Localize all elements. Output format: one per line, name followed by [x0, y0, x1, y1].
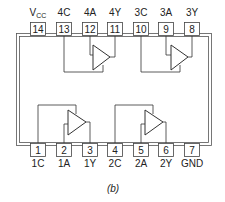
pin-label-4a: 4A — [84, 7, 97, 18]
pin-14: 14 — [31, 23, 46, 36]
pin-6: 6 — [159, 144, 174, 157]
pin-2: 2 — [57, 144, 72, 157]
pin-3: 3 — [83, 144, 98, 157]
pin-label-3a: 3A — [160, 7, 173, 18]
pin-7: 7 — [185, 144, 200, 157]
pin-4: 4 — [108, 144, 123, 157]
bottom-pin-labels: 1C 1A 1Y 2C 2A 2Y GND — [32, 158, 204, 169]
gate-4 — [64, 36, 115, 72]
buffer-triangle-icon — [93, 45, 110, 70]
pin-9: 9 — [159, 23, 174, 36]
svg-text:3: 3 — [87, 145, 93, 156]
buffer-triangle-icon — [68, 110, 86, 135]
pin-label-1a: 1A — [58, 158, 71, 169]
pin-label-4c: 4C — [58, 7, 71, 18]
pin-8: 8 — [185, 23, 200, 36]
svg-text:8: 8 — [189, 24, 195, 35]
buffer-triangle-icon — [145, 110, 163, 135]
pin-label-4y: 4Y — [109, 7, 122, 18]
svg-text:9: 9 — [163, 24, 169, 35]
svg-text:6: 6 — [163, 145, 169, 156]
pin-5: 5 — [134, 144, 149, 157]
pin-11: 11 — [108, 23, 123, 36]
svg-text:1: 1 — [35, 145, 41, 156]
svg-text:4: 4 — [112, 145, 118, 156]
svg-text:14: 14 — [32, 24, 44, 35]
pin-label-3c: 3C — [135, 7, 148, 18]
svg-text:5: 5 — [138, 145, 144, 156]
svg-text:10: 10 — [135, 24, 147, 35]
gate-3 — [141, 36, 192, 72]
svg-text:2: 2 — [61, 145, 67, 156]
chip-body — [17, 34, 212, 146]
pin-13: 13 — [57, 23, 72, 36]
ic-pinout-diagram: 14 13 12 11 10 9 8 VCC 4C 4A 4Y — [0, 0, 225, 202]
pin-label-2c: 2C — [109, 158, 122, 169]
gate-1 — [38, 105, 90, 143]
pin-label-3y: 3Y — [186, 7, 199, 18]
svg-text:11: 11 — [110, 24, 121, 35]
pin-label-1c: 1C — [32, 158, 45, 169]
pin-10: 10 — [134, 23, 149, 36]
pin-12: 12 — [83, 23, 98, 36]
pin-label-gnd: GND — [181, 158, 203, 169]
top-pin-labels: VCC 4C 4A 4Y 3C 3A 3Y — [30, 7, 199, 19]
svg-text:7: 7 — [189, 145, 195, 156]
pin-label-2a: 2A — [135, 158, 148, 169]
pin-label-1y: 1Y — [84, 158, 97, 169]
pin-label-2y: 2Y — [160, 158, 173, 169]
pin-1: 1 — [31, 144, 46, 157]
svg-text:12: 12 — [84, 24, 96, 35]
gate-2 — [115, 105, 166, 143]
buffer-triangle-icon — [171, 45, 188, 70]
svg-text:13: 13 — [58, 24, 70, 35]
figure-caption: (b) — [107, 183, 119, 194]
pin-label-vcc: VCC — [30, 7, 47, 19]
